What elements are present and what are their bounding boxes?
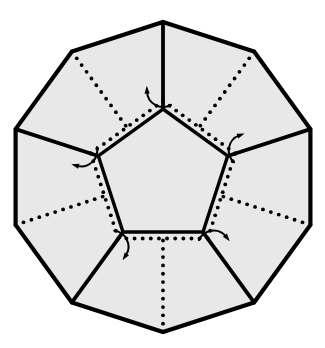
net-diagram-canvas (0, 0, 325, 348)
dodecahedron-net-figure (0, 0, 325, 348)
